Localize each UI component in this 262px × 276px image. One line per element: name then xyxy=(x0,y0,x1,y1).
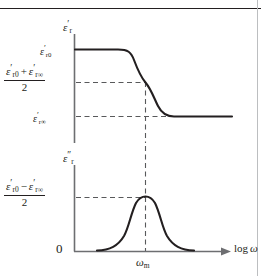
tick-label-epsilon-difference: ε′r0−ε′r∞ 2 xyxy=(4,179,45,208)
omega-m-symbol: ω xyxy=(136,256,144,268)
x-tick-label-omega-m: ωm xyxy=(136,257,150,270)
tick-label-epsilon-r0: ε′r0 xyxy=(40,44,51,59)
lower-y-axis-subscript: r xyxy=(71,157,74,166)
tick-label-epsilon-r-infinity: ε′r∞ xyxy=(33,111,46,126)
x-axis-label: logω xyxy=(234,243,258,254)
origin-label: 0 xyxy=(56,242,63,255)
difference-fraction: ε′r0−ε′r∞ 2 xyxy=(4,179,45,208)
difference-term2-subscript: r∞ xyxy=(35,185,43,194)
epsilon-r0-subscript: r0 xyxy=(46,51,52,58)
upper-y-axis-label: ε′r xyxy=(63,20,72,35)
epsilon-rinf-subscript: r∞ xyxy=(39,118,46,125)
tick-label-epsilon-average: ε′r0+ε′r∞ 2 xyxy=(4,64,45,93)
average-operator: + xyxy=(19,65,29,77)
real-permittivity-curve xyxy=(75,50,232,117)
average-fraction-numerator: ε′r0+ε′r∞ xyxy=(4,64,45,81)
average-term2-subscript: r∞ xyxy=(35,70,43,79)
omega-m-subscript: m xyxy=(144,261,150,270)
average-term1-subscript: r0 xyxy=(12,70,18,79)
figure-canvas xyxy=(0,0,262,276)
x-axis-label-omega: ω xyxy=(248,242,258,254)
difference-fraction-numerator: ε′r0−ε′r∞ xyxy=(4,179,45,196)
difference-fraction-denominator: 2 xyxy=(4,196,45,208)
difference-operator: − xyxy=(19,180,29,192)
difference-term1-subscript: r0 xyxy=(12,185,18,194)
average-fraction-denominator: 2 xyxy=(4,81,45,93)
x-axis-arrow-icon xyxy=(221,248,231,256)
upper-y-axis-subscript: r xyxy=(69,26,72,35)
lower-y-axis-label: ε″r xyxy=(63,151,74,166)
permittivity-relaxation-figure: ε′r ε′r0 ε′r0+ε′r∞ 2 ε′r∞ ε″r ε′r0−ε′r∞ … xyxy=(0,0,262,276)
x-axis-label-log: log xyxy=(234,242,248,254)
average-fraction: ε′r0+ε′r∞ 2 xyxy=(4,64,45,93)
